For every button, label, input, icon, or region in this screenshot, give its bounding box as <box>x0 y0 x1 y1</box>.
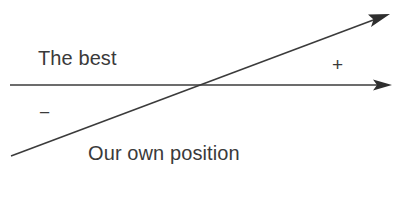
label-our-own-position: Our own position <box>88 143 240 163</box>
plus-sign: + <box>332 55 343 74</box>
diagonal-axis-line <box>11 18 380 157</box>
diagram-svg <box>0 0 406 198</box>
minus-sign: − <box>39 103 50 122</box>
label-the-best: The best <box>38 48 117 68</box>
diagram-canvas: The best Our own position + − <box>0 0 406 198</box>
